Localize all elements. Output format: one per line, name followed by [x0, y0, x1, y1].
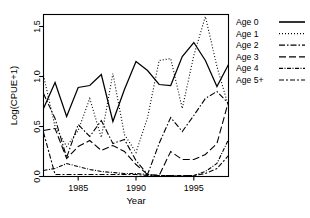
series-line-age-3 — [44, 102, 229, 176]
y-axis-title: Log(CPUE+1) — [8, 66, 19, 125]
line-chart: 0.00.51.01.5198519901995YearLog(CPUE+1)A… — [0, 0, 310, 218]
x-axis-tick-label: 1985 — [68, 183, 88, 193]
series-line-age-1 — [44, 17, 229, 153]
legend-label-age-4: Age 4 — [236, 63, 259, 73]
x-axis-tick-label: 1990 — [126, 183, 146, 193]
x-axis-title: Year — [126, 195, 145, 206]
legend-label-age-3: Age 3 — [236, 52, 259, 62]
y-axis-tick-label: 0.0 — [32, 170, 42, 183]
chart-figure: 0.00.51.01.5198519901995YearLog(CPUE+1)A… — [0, 0, 310, 218]
legend-label-age-5: Age 5+ — [236, 75, 263, 85]
y-axis-tick-label: 1.5 — [32, 20, 42, 33]
y-axis-tick-label: 1.0 — [32, 70, 42, 83]
series-line-age-0 — [44, 43, 229, 122]
x-axis-tick-label: 1995 — [184, 183, 204, 193]
legend-label-age-2: Age 2 — [236, 40, 259, 50]
y-axis-tick-label: 0.5 — [32, 120, 42, 133]
legend-label-age-1: Age 1 — [236, 29, 259, 39]
legend-label-age-0: Age 0 — [236, 17, 259, 27]
